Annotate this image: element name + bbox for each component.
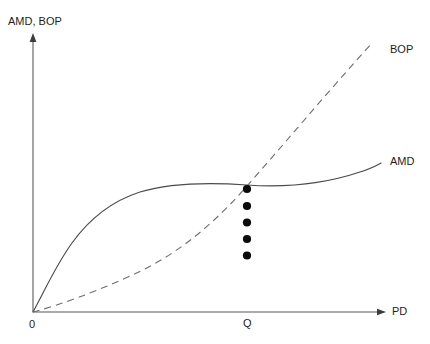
dot-marker <box>243 218 251 226</box>
dot-marker <box>243 251 251 259</box>
dot-column-at-q <box>243 185 251 260</box>
x-axis-label: PD <box>392 306 407 317</box>
dot-marker <box>243 202 251 210</box>
y-axis-label: AMD, BOP <box>8 16 62 27</box>
q-tick-label: Q <box>243 318 252 329</box>
origin-label: 0 <box>29 319 35 330</box>
amd-curve <box>33 163 381 312</box>
amd-curve-label: AMD <box>390 156 414 167</box>
x-axis-arrow-icon <box>377 309 386 316</box>
plot-canvas <box>0 0 430 344</box>
y-axis-arrow-icon <box>30 33 37 42</box>
bop-curve-label: BOP <box>390 44 413 55</box>
economics-diagram-figure: AMD, BOP BOP AMD PD 0 Q <box>0 0 430 344</box>
dot-marker <box>243 185 251 193</box>
bop-curve <box>33 42 373 312</box>
dot-marker <box>243 235 251 243</box>
